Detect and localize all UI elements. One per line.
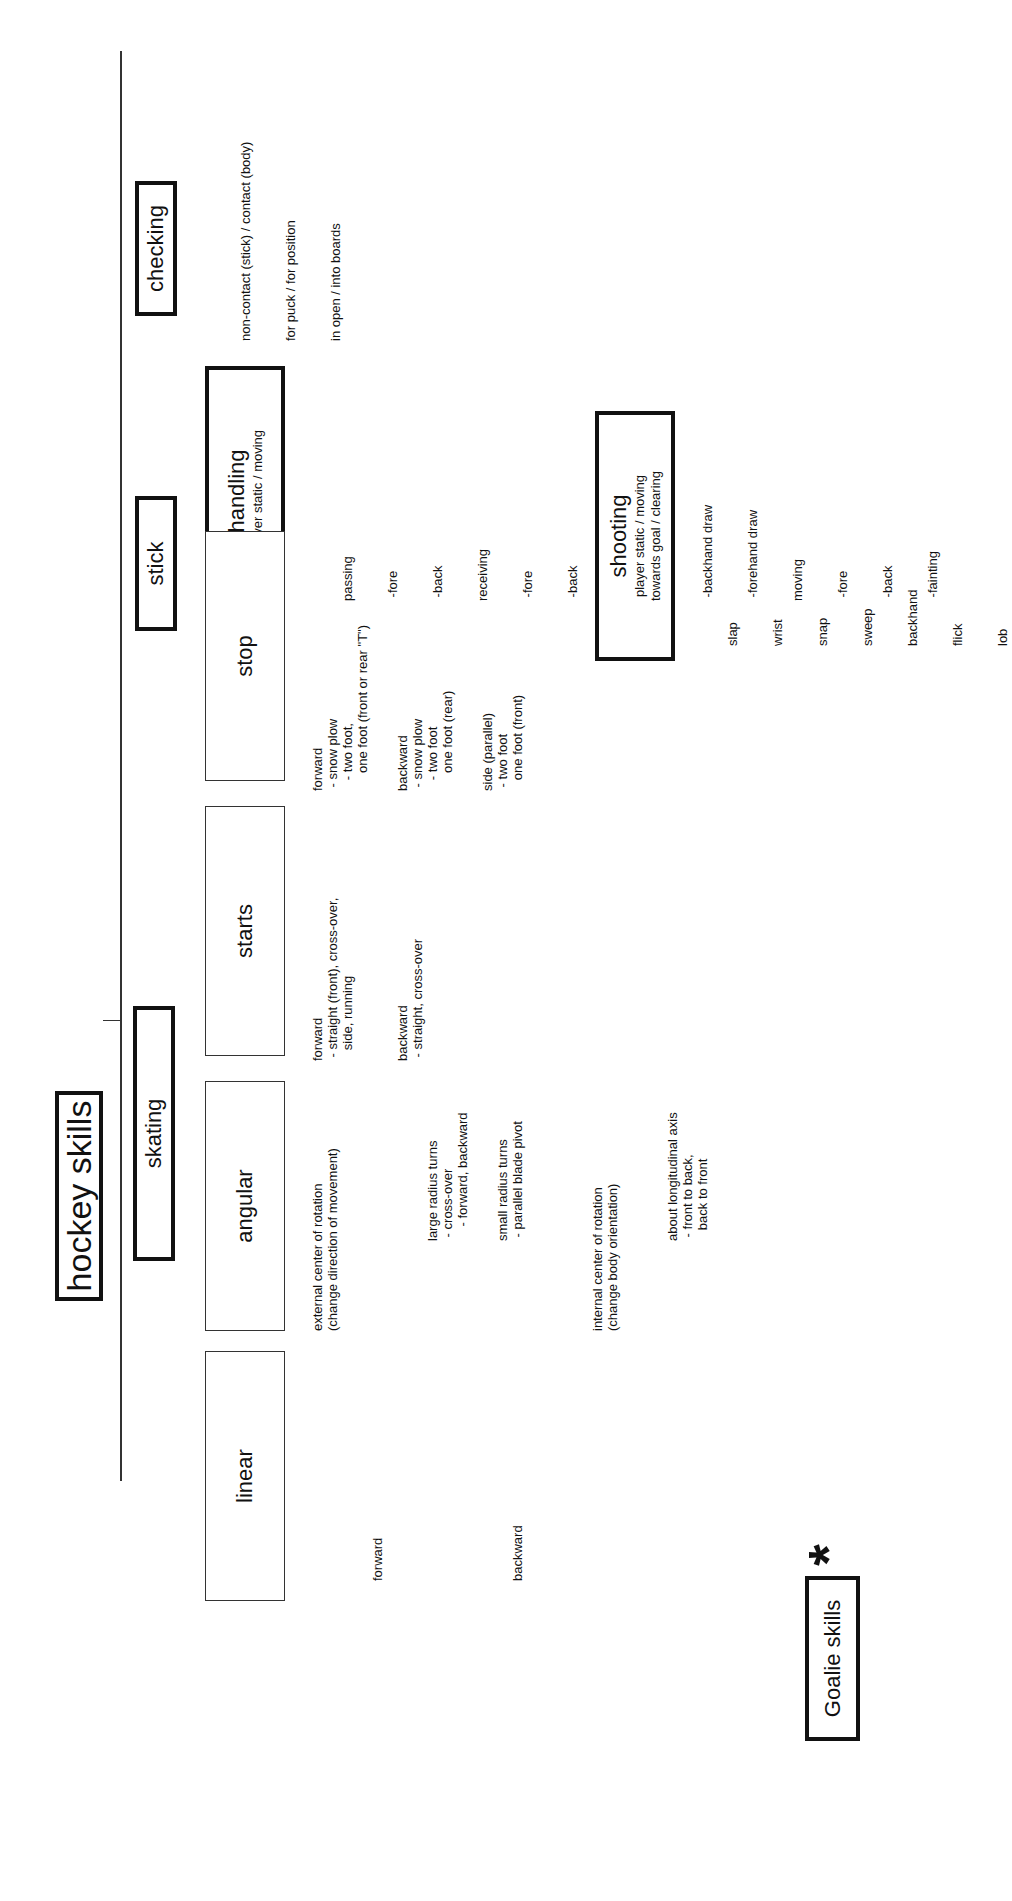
- stop-group-side: side (parallel) - two foot one foot (fro…: [480, 695, 525, 791]
- stop-group-forward: forward - snow plow - two foot, one foot…: [310, 625, 370, 791]
- angular-internal-axis: about longitudinal axis - front to back,…: [665, 1112, 710, 1241]
- angular-external: external center of rotation (change dire…: [310, 1148, 340, 1331]
- stop-group-backward: backward - snow plow - two foot one foot…: [395, 691, 455, 791]
- checking-node: checking: [135, 181, 177, 316]
- root-node: hockey skills: [55, 1091, 103, 1301]
- starts-group-backward: backward - straight, cross-over: [395, 939, 425, 1061]
- skating-node: skating: [133, 1006, 175, 1261]
- angular-external-small: small radius turns - parallel blade pivo…: [495, 1121, 525, 1241]
- starts-group-forward: forward - straight (front), cross-over, …: [310, 898, 355, 1061]
- trunk-spine: [120, 51, 122, 1481]
- stick-node: stick: [135, 496, 177, 631]
- stop-node: stop: [205, 531, 285, 781]
- shooting-items: slap wrist snap sweep backhand flick lob: [695, 590, 1012, 646]
- checking-items: non-contact (stick) / contact (body) for…: [208, 142, 373, 341]
- linear-node: linear: [205, 1351, 285, 1601]
- asterisk-marker-icon: *: [800, 1544, 856, 1566]
- linear-items: forward backward: [340, 1525, 555, 1581]
- angular-external-large: large radius turns - cross-over - forwar…: [425, 1112, 470, 1241]
- angular-internal: internal center of rotation (change body…: [590, 1184, 620, 1331]
- trunk-line: [103, 1020, 121, 1021]
- shooting-node: shooting player static / moving towards …: [595, 411, 675, 661]
- starts-node: starts: [205, 806, 285, 1056]
- goalie-node: Goalie skills: [805, 1576, 860, 1741]
- angular-node: angular: [205, 1081, 285, 1331]
